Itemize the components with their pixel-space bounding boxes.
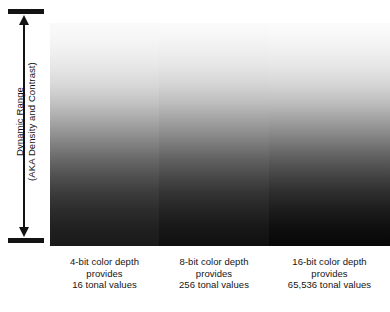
caption-8bit: 8-bit color depth provides 256 tonal val… <box>159 256 269 291</box>
gradient-panel-8bit <box>159 23 269 246</box>
gradient-fill <box>50 23 159 246</box>
axis-arrowhead-down-icon <box>19 227 29 237</box>
axis-bottom-cap-bar <box>8 238 44 243</box>
caption-16bit: 16-bit color depth provides 65,536 tonal… <box>269 256 390 291</box>
caption-line3: 256 tonal values <box>159 279 269 291</box>
axis-top-cap-bar <box>8 9 44 14</box>
caption-line2: provides <box>269 268 390 280</box>
axis-label: Dynamic Range (AKA Density and Contrast) <box>14 32 37 212</box>
gradient-fill <box>159 23 269 246</box>
gradient-panel-16bit <box>269 23 390 246</box>
caption-line2: provides <box>159 268 269 280</box>
caption-line2: provides <box>50 268 159 280</box>
axis-label-line2: (AKA Density and Contrast) <box>25 32 37 212</box>
caption-line1: 8-bit color depth <box>159 256 269 268</box>
caption-line3: 65,536 tonal values <box>269 279 390 291</box>
caption-line1: 16-bit color depth <box>269 256 390 268</box>
caption-line3: 16 tonal values <box>50 279 159 291</box>
caption-group: 4-bit color depth provides 16 tonal valu… <box>50 256 390 291</box>
gradient-panel-group <box>50 23 390 246</box>
caption-line1: 4-bit color depth <box>50 256 159 268</box>
dynamic-range-axis: Dynamic Range (AKA Density and Contrast) <box>0 0 50 250</box>
gradient-panel-4bit <box>50 23 159 246</box>
caption-4bit: 4-bit color depth provides 16 tonal valu… <box>50 256 159 291</box>
dynamic-range-figure: Dynamic Range (AKA Density and Contrast)… <box>0 0 390 312</box>
axis-label-line1: Dynamic Range <box>14 32 26 212</box>
gradient-fill <box>269 23 390 246</box>
